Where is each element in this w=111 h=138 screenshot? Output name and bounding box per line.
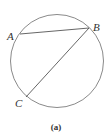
- point-label-a: A: [6, 30, 14, 42]
- chord-ab: [20, 28, 89, 34]
- point-label-b: B: [93, 21, 100, 33]
- point-label-c: C: [15, 97, 23, 109]
- figure-caption: (a): [51, 122, 62, 132]
- circle-chord-diagram: A B C (a): [0, 0, 111, 138]
- circle: [11, 15, 104, 108]
- chord-bc: [26, 28, 89, 97]
